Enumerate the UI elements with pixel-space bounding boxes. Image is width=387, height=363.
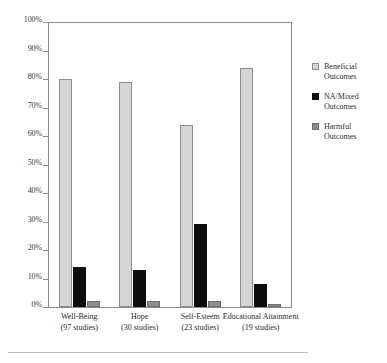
legend-label-line1: NA/Mixed	[324, 92, 359, 101]
bar-group	[170, 22, 231, 307]
legend-label: BeneficialOutcomes	[324, 62, 386, 82]
y-axis-tick-label: 40%	[28, 186, 42, 195]
bar-namixed	[194, 224, 207, 307]
x-axis-category-name: Educational Attainment	[213, 311, 309, 322]
y-axis-tick-label: 0%	[32, 300, 42, 309]
bar-namixed	[133, 270, 146, 307]
bar-group	[231, 22, 292, 307]
y-axis-tick-label: 20%	[28, 243, 42, 252]
y-axis-tick-label: 90%	[28, 44, 42, 53]
chart-legend: BeneficialOutcomesNA/MixedOutcomesHarmfu…	[312, 62, 386, 152]
legend-label-line2: Outcomes	[324, 132, 386, 142]
bar-harmful	[147, 301, 160, 307]
bar-beneficial	[180, 125, 193, 307]
bar-beneficial	[240, 68, 253, 307]
legend-swatch-beneficial	[312, 63, 319, 70]
bar-beneficial	[119, 82, 132, 307]
legend-item[interactable]: HarmfulOutcomes	[312, 122, 386, 142]
x-axis-labels: Well-Being(97 studies)Hope(30 studies)Se…	[49, 311, 291, 345]
legend-label-line2: Outcomes	[324, 102, 386, 112]
bar-harmful	[268, 304, 281, 307]
y-axis-tick-label: 70%	[28, 101, 42, 110]
x-axis-label: Educational Attainment(19 studies)	[213, 311, 309, 333]
bar-chart: 0%10%20%30%40%50%60%70%80%90%100% Well-B…	[0, 0, 387, 363]
y-axis-tick-label: 50%	[28, 158, 42, 167]
legend-swatch-namixed	[312, 93, 319, 100]
y-axis-tick-label: 30%	[28, 215, 42, 224]
bar-harmful	[87, 301, 100, 307]
bar-namixed	[254, 284, 267, 307]
y-axis-tick-label: 60%	[28, 129, 42, 138]
bar-beneficial	[59, 79, 72, 307]
x-axis-category-sublabel: (19 studies)	[213, 322, 309, 333]
y-axis: 0%10%20%30%40%50%60%70%80%90%100%	[0, 22, 48, 308]
legend-item[interactable]: NA/MixedOutcomes	[312, 92, 386, 112]
bar-group	[49, 22, 110, 307]
bar-namixed	[73, 267, 86, 307]
legend-label-line2: Outcomes	[324, 72, 386, 82]
bar-groups	[49, 22, 291, 307]
bar-harmful	[208, 301, 221, 307]
legend-item[interactable]: BeneficialOutcomes	[312, 62, 386, 82]
legend-label-line1: Harmful	[324, 122, 351, 131]
bottom-divider	[8, 352, 308, 353]
y-axis-tick-label: 80%	[28, 72, 42, 81]
y-axis-tick-label: 100%	[24, 15, 42, 24]
y-axis-tick-label: 10%	[28, 272, 42, 281]
legend-label: NA/MixedOutcomes	[324, 92, 386, 112]
legend-label: HarmfulOutcomes	[324, 122, 386, 142]
legend-swatch-harmful	[312, 123, 319, 130]
bar-group	[110, 22, 171, 307]
legend-label-line1: Beneficial	[324, 62, 357, 71]
